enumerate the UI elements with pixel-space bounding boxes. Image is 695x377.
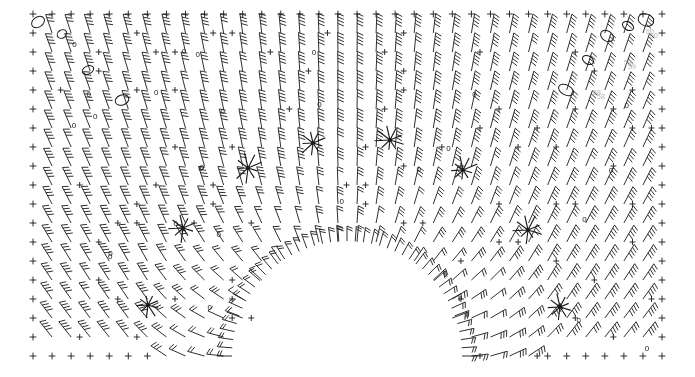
contour-label-59: 59 [628, 63, 636, 70]
contour-label-60: 60 [650, 32, 658, 39]
vector-field-figure: 58 59 60 [0, 0, 695, 377]
contour-label-58: 58 [597, 93, 605, 100]
vector-field-canvas [0, 0, 695, 377]
